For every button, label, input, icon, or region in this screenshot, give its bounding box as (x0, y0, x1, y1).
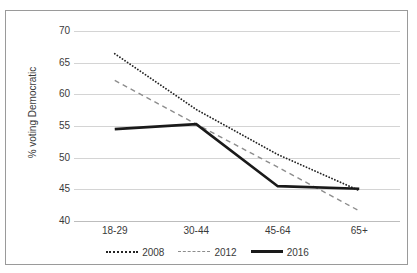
x-axis-tick-labels: 18-2930-4445-6465+ (74, 225, 400, 241)
series-line-2016 (115, 124, 360, 189)
legend-item-2012[interactable]: 2012 (178, 247, 236, 258)
x-tick-label: 18-29 (80, 225, 150, 236)
x-tick-label: 30-44 (161, 225, 231, 236)
legend-item-2008[interactable]: 2008 (106, 247, 164, 258)
series-line-2012 (115, 80, 360, 210)
x-tick-label: 45-64 (243, 225, 313, 236)
y-tick-label: 50 (36, 153, 70, 163)
legend-swatch-icon (106, 249, 138, 255)
series-lines (74, 31, 400, 221)
y-tick-label: 40 (36, 216, 70, 226)
chart-legend: 200820122016 (6, 243, 409, 261)
plot-area (74, 31, 400, 221)
legend-label: 2012 (214, 247, 236, 258)
legend-label: 2016 (287, 247, 309, 258)
y-tick-label: 65 (36, 58, 70, 68)
y-tick-label: 45 (36, 184, 70, 194)
gridline (74, 221, 400, 222)
legend-swatch-icon (178, 249, 210, 255)
y-axis-title: % voting Democratic (27, 38, 38, 188)
x-tick-label: 65+ (324, 225, 394, 236)
series-line-2008 (115, 54, 360, 191)
y-tick-label: 55 (36, 121, 70, 131)
y-tick-label: 60 (36, 89, 70, 99)
chart-figure: 70656055504540 % voting Democratic 18-29… (5, 10, 408, 265)
y-tick-label: 70 (36, 26, 70, 36)
legend-label: 2008 (142, 247, 164, 258)
legend-item-2016[interactable]: 2016 (251, 247, 309, 258)
legend-swatch-icon (251, 249, 283, 255)
